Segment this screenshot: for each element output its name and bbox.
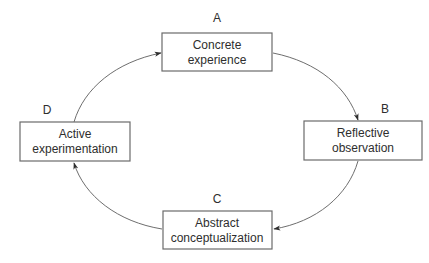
stage-a: A Concrete experience xyxy=(162,11,272,71)
stage-c: C Abstract conceptualization xyxy=(163,192,272,249)
stage-d: D Active experimentation xyxy=(20,103,130,161)
stage-c-line-2: conceptualization xyxy=(171,231,264,245)
stage-c-line-1: Abstract xyxy=(195,216,240,230)
stage-b-letter: B xyxy=(381,102,389,116)
stage-d-letter: D xyxy=(43,103,52,117)
stage-b-line-2: observation xyxy=(332,141,394,155)
arrow-c-to-d xyxy=(74,163,162,229)
stage-b-line-1: Reflective xyxy=(337,126,390,140)
stage-d-line-1: Active xyxy=(59,127,92,141)
stage-c-letter: C xyxy=(213,192,222,206)
stage-b: B Reflective observation xyxy=(304,102,422,160)
learning-cycle-diagram: A Concrete experience B Reflective obser… xyxy=(0,0,429,263)
stage-a-line-1: Concrete xyxy=(193,38,242,52)
stage-d-line-2: experimentation xyxy=(32,142,117,156)
arrow-d-to-a xyxy=(74,53,161,122)
stage-a-letter: A xyxy=(213,11,221,25)
arrow-a-to-b xyxy=(273,53,358,120)
arrow-b-to-c xyxy=(274,161,358,229)
stage-a-line-2: experience xyxy=(188,53,247,67)
